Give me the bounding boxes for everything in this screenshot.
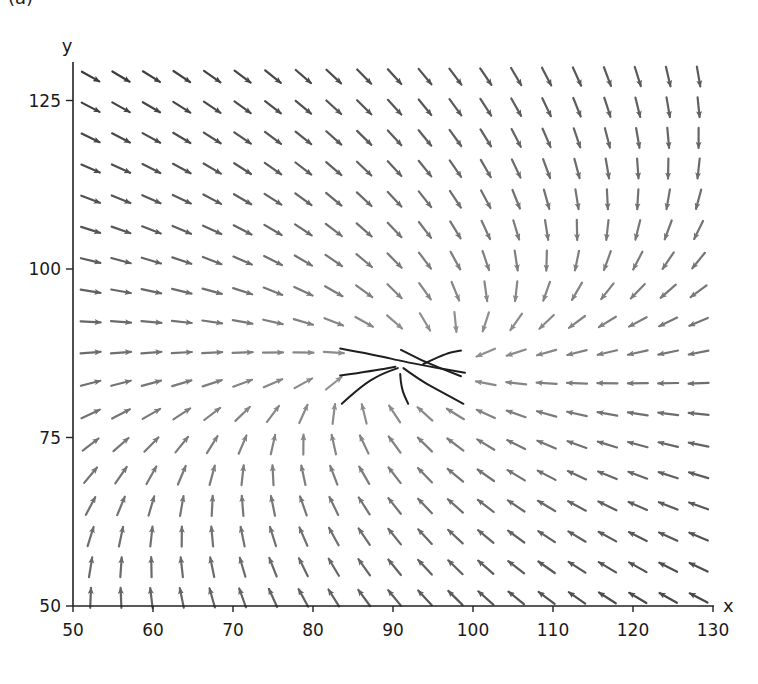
vector-arrow — [508, 470, 525, 480]
vector-arrow — [242, 465, 244, 485]
y-tick: 50 — [39, 596, 73, 616]
vector-arrow — [419, 283, 431, 299]
vector-arrow — [691, 285, 707, 297]
x-tick-label: 130 — [697, 620, 729, 640]
vector-arrow — [418, 407, 433, 420]
vector-arrow — [81, 227, 100, 233]
vector-arrow — [513, 190, 520, 209]
vector-arrow — [327, 70, 342, 84]
vector-arrow — [388, 560, 401, 576]
vector-arrow — [88, 527, 94, 546]
vector-arrow — [142, 381, 161, 386]
vector-arrow — [450, 99, 462, 115]
vector-arrow — [628, 472, 647, 479]
x-tick: 50 — [62, 606, 84, 640]
vector-arrow — [271, 435, 275, 455]
vector-arrow — [389, 467, 401, 483]
vector-arrow — [82, 410, 100, 419]
vector-arrow — [507, 440, 525, 449]
vector-arrow — [202, 321, 222, 324]
vector-arrow — [567, 412, 587, 416]
vector-arrow — [419, 253, 431, 269]
vector-arrow — [326, 101, 341, 115]
vector-arrow — [111, 352, 131, 354]
vector-arrow — [689, 472, 708, 478]
x-tick-label: 100 — [457, 620, 489, 640]
vector-arrow — [604, 67, 611, 86]
vector-arrow — [659, 563, 677, 572]
vector-arrow — [689, 318, 707, 326]
vector-arrow — [324, 352, 344, 353]
vector-arrow — [299, 527, 307, 545]
vector-arrow — [537, 383, 557, 384]
vector-arrow — [477, 349, 495, 357]
vector-arrow — [604, 251, 611, 270]
vector-arrow — [86, 497, 95, 515]
vector-arrow — [575, 251, 579, 271]
vector-arrow — [142, 258, 161, 264]
vector-arrow — [599, 593, 616, 604]
vector-arrow — [419, 222, 431, 238]
vector-arrow — [329, 528, 339, 546]
vector-arrow — [325, 286, 342, 296]
vector-arrow — [629, 532, 647, 541]
vector-arrow — [537, 350, 556, 355]
vector-arrow — [270, 527, 276, 546]
vector-arrow — [112, 227, 131, 234]
vector-arrow — [629, 562, 646, 572]
vector-arrow — [631, 284, 645, 298]
vector-arrow — [666, 67, 671, 87]
vector-arrow — [419, 100, 432, 116]
vector-arrow — [239, 435, 247, 453]
vector-arrow — [294, 319, 313, 325]
vector-arrow — [359, 467, 369, 484]
vector-arrow — [599, 562, 616, 572]
vector-arrow — [607, 189, 608, 209]
vector-arrow — [508, 531, 524, 543]
y-tick: 100 — [29, 259, 73, 279]
vector-arrow — [513, 220, 519, 239]
vector-arrow — [173, 133, 190, 143]
vector-arrow — [359, 528, 370, 545]
vector-arrow — [329, 590, 340, 607]
vector-arrow — [82, 134, 100, 143]
panel-label: (a) — [8, 0, 33, 8]
vector-arrow — [143, 71, 160, 82]
vector-arrow — [480, 68, 491, 85]
vector-arrow — [511, 68, 521, 85]
vector-arrow — [418, 438, 432, 452]
vector-arrow — [507, 350, 526, 356]
vector-arrow — [606, 159, 609, 179]
vector-arrow — [203, 257, 222, 264]
vector-arrow — [454, 312, 456, 332]
vector-arrow — [598, 502, 616, 511]
vector-arrow — [143, 409, 160, 419]
vector-arrow — [637, 189, 638, 209]
vector-arrow — [538, 471, 556, 480]
vector-arrow — [235, 101, 251, 113]
vector-arrow — [203, 226, 221, 234]
vector-arrow — [233, 320, 253, 324]
vector-arrow — [326, 224, 342, 236]
vector-arrow — [572, 283, 582, 300]
vector-arrow — [357, 131, 371, 145]
vector-arrow — [147, 467, 157, 485]
vector-arrow — [81, 165, 99, 173]
vector-arrow — [326, 193, 341, 206]
vector-arrow — [149, 496, 155, 515]
streamline — [423, 351, 461, 364]
vector-arrow — [265, 194, 282, 205]
vector-arrow — [543, 159, 550, 178]
vector-arrow — [82, 72, 99, 82]
vector-arrow — [233, 257, 251, 265]
vector-arrow — [296, 70, 311, 83]
vector-arrow — [269, 589, 277, 607]
vector-arrow — [450, 160, 461, 176]
vector-arrow — [326, 162, 341, 175]
vector-arrow — [172, 380, 191, 386]
vector-arrow — [663, 252, 674, 269]
vector-arrow — [478, 591, 493, 604]
vector-arrow — [478, 530, 493, 543]
vector-arrow — [510, 314, 522, 330]
vector-arrow — [388, 161, 402, 176]
